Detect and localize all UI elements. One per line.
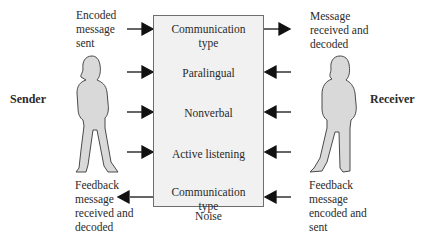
sender-figure-icon <box>76 56 118 172</box>
receiver-top-note: Message received and decoded <box>310 9 368 51</box>
sender-label: Sender <box>10 92 46 107</box>
channel-item-communication-type-top: Communication type <box>154 22 263 50</box>
noise-label: Noise <box>153 209 264 223</box>
receiver-label: Receiver <box>370 92 415 107</box>
communication-channel-box: Communication type Paralingual Nonverbal… <box>153 15 264 207</box>
receiver-figure-icon <box>310 56 356 172</box>
channel-item-active-listening: Active listening <box>154 147 263 161</box>
channel-item-paralingual: Paralingual <box>154 66 263 80</box>
channel-item-nonverbal: Nonverbal <box>154 106 263 120</box>
sender-top-note: Encoded message sent <box>76 8 116 50</box>
receiver-bottom-note: Feedback message encoded and sent <box>309 178 367 234</box>
right-arrows <box>264 23 291 203</box>
left-arrows <box>118 23 153 203</box>
sender-bottom-note: Feedback message received and decoded <box>75 178 133 234</box>
